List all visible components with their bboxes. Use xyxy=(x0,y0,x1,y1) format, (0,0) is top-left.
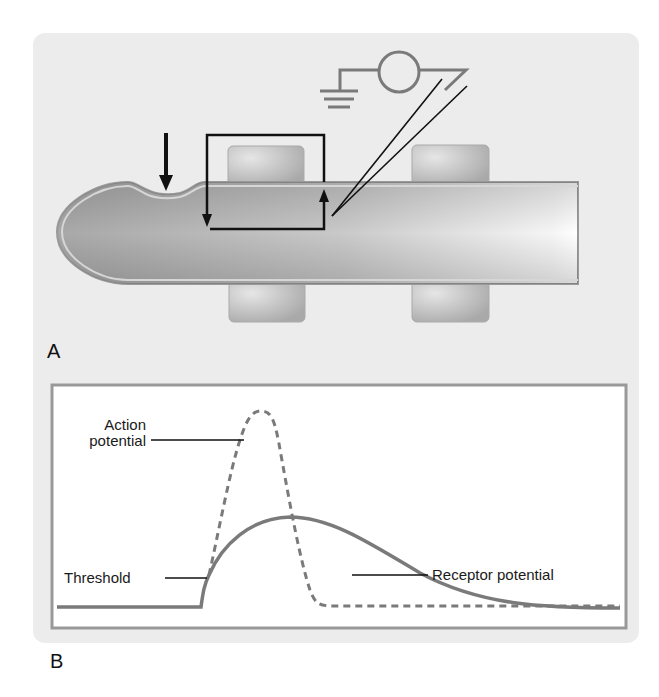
action-potential-label-line2: potential xyxy=(60,432,146,450)
receptor-potential-label: Receptor potential xyxy=(432,566,554,584)
threshold-label: Threshold xyxy=(64,569,131,587)
panel-a-label: A xyxy=(47,340,60,363)
ground-symbol-icon xyxy=(320,70,380,107)
diagram-canvas xyxy=(0,0,659,697)
axon-terminal xyxy=(57,182,578,284)
down-arrow-icon xyxy=(159,133,173,191)
voltmeter-circle-icon xyxy=(379,52,419,92)
panel-b-label: B xyxy=(50,650,63,673)
